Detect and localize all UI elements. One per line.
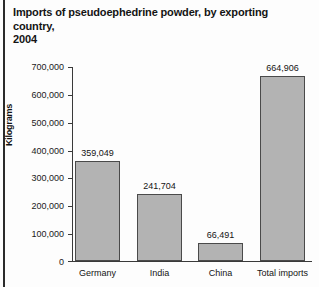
x-tick-label-india: India: [137, 268, 182, 278]
bar-india[interactable]: [137, 194, 182, 261]
bar-value-india: 241,704: [137, 182, 182, 191]
y-tick-mark: [68, 151, 73, 152]
y-axis-tick-labels: 700,000 600,000 500,000 400,000 300,000 …: [0, 67, 64, 263]
y-tick-mark: [68, 206, 73, 207]
x-tick-label-china: China: [198, 268, 243, 278]
chart-figure: Imports of pseudoephedrine powder, by ex…: [0, 0, 319, 287]
y-tick-mark: [68, 178, 73, 179]
x-tick-label-total-imports: Total imports: [253, 268, 312, 278]
bar-total-imports[interactable]: [260, 76, 305, 261]
y-axis-line: [72, 67, 73, 262]
y-tick-label: 100,000: [6, 230, 64, 239]
y-tick-mark: [68, 67, 73, 68]
x-tick-label-germany: Germany: [75, 268, 120, 278]
x-axis-line: [72, 261, 312, 262]
bar-china[interactable]: [198, 243, 243, 262]
y-tick-label: 400,000: [6, 147, 64, 156]
y-tick-label: 0: [6, 258, 64, 267]
y-tick-label: 500,000: [6, 119, 64, 128]
y-tick-label: 600,000: [6, 91, 64, 100]
bar-value-total-imports: 664,906: [260, 64, 305, 73]
bar-value-china: 66,491: [198, 231, 243, 240]
bar-value-germany: 359,049: [75, 149, 120, 158]
y-tick-label: 200,000: [6, 202, 64, 211]
y-tick-label: 300,000: [6, 174, 64, 183]
plot-area: 359,049 241,704 66,491 664,906: [72, 67, 315, 262]
y-tick-mark: [68, 95, 73, 96]
y-tick-mark: [68, 234, 73, 235]
page-title: Imports of pseudoephedrine powder, by ex…: [13, 6, 309, 47]
y-tick-label: 700,000: [6, 63, 64, 72]
y-tick-mark: [68, 123, 73, 124]
bar-germany[interactable]: [75, 161, 120, 261]
x-axis-tick-labels: Germany India China Total imports: [72, 268, 315, 282]
y-tick-mark: [68, 261, 73, 262]
